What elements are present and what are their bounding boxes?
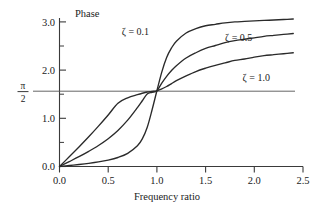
y-minor-ticks [60,46,65,142]
curve-annotations: ζ = 0.1 ζ = 0.5 ζ = 1.0 [122,26,270,83]
x-tick-label: 1.5 [199,175,212,186]
pi-over-2-denominator: 2 [21,94,26,104]
curve-zeta-0-5 [60,33,294,166]
x-axis-title: Frequency ratio [134,191,200,202]
x-tick-label: 0.0 [53,175,66,186]
x-major-ticks [60,167,304,173]
curve-zeta-0-1 [60,19,294,166]
x-tick-labels: 0.0 0.5 1.0 1.5 2.0 2.5 [53,175,310,186]
x-tick-label: 0.5 [102,175,115,186]
chart-figure: π 2 3.0 2.0 1.0 0.0 0.0 0.5 1.0 1.5 2.0 … [0,0,320,209]
y-tick-labels: 3.0 2.0 1.0 0.0 [42,17,55,172]
curve-label-zeta-0-5: ζ = 0.5 [225,32,252,44]
x-tick-label: 2.5 [296,175,309,186]
curve-label-zeta-0-1: ζ = 0.1 [122,26,149,38]
pi-over-2-label: π 2 [18,81,29,104]
curve-label-zeta-1-0: ζ = 1.0 [243,72,270,84]
chart-svg: π 2 3.0 2.0 1.0 0.0 0.0 0.5 1.0 1.5 2.0 … [0,0,320,209]
y-tick-label: 1.0 [42,113,55,124]
y-tick-label: 2.0 [42,65,55,76]
curve-zeta-1-0 [60,53,294,167]
pi-over-2-numerator: π [21,81,26,91]
y-tick-label: 0.0 [42,161,55,172]
x-tick-label: 2.0 [248,175,261,186]
y-axis-title: Phase [75,8,100,19]
x-tick-label: 1.0 [150,175,163,186]
y-tick-label: 3.0 [42,17,55,28]
axes-group [60,18,304,167]
curves-group [60,19,294,166]
